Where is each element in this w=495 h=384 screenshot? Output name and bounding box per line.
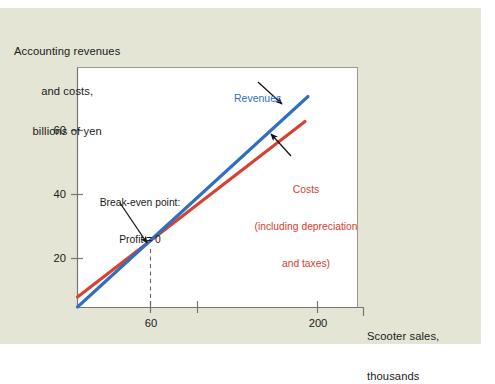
revenues-annotation: Revenues [234, 68, 281, 129]
x-tick-label-60: 60 [134, 317, 168, 329]
x-axis-title-line-1: Scooter sales, [367, 330, 439, 343]
break-even-annotation-line-1: Break-even point: [81, 197, 199, 209]
y-tick-label-40: 40 [40, 188, 66, 200]
x-axis-title: Scooter sales, thousands [367, 303, 439, 384]
break-even-annotation: Break-even point: Profit = 0 [81, 173, 199, 271]
costs-annotation: Costs (including depreciation and taxes) [240, 160, 372, 294]
x-tick-label-200: 200 [301, 317, 335, 329]
y-axis-title-line-3: billions of yen [14, 125, 120, 138]
revenues-annotation-line-1: Revenues [234, 92, 281, 104]
break-even-annotation-line-2: Profit = 0 [81, 234, 199, 246]
y-tick-label-60: 60 [40, 124, 66, 136]
costs-annotation-line-1: Costs [240, 184, 372, 196]
costs-annotation-line-2: (including depreciation [240, 221, 372, 233]
y-axis-title-line-2: and costs, [14, 85, 120, 98]
x-axis-title-line-2: thousands [367, 370, 439, 383]
y-axis-title-line-1: Accounting revenues [14, 45, 120, 58]
costs-annotation-line-3: and taxes) [240, 258, 372, 270]
y-axis-title: Accounting revenues and costs, billions … [14, 18, 120, 165]
y-tick-label-20: 20 [40, 252, 66, 264]
